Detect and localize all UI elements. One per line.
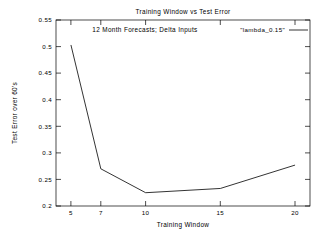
y-tick-label-2: 0.3 xyxy=(42,149,52,156)
chart-subtitle: 12 Month Forecasts; Delta Inputs xyxy=(92,26,197,34)
chart-background xyxy=(0,0,325,234)
x-tick-label-0: 5 xyxy=(69,209,73,216)
y-tick-label-7: 0.55 xyxy=(39,16,53,23)
x-axis-label: Training Window xyxy=(157,221,210,229)
legend-entry-label: "lambda_0.15" xyxy=(240,26,285,33)
line-chart: Training Window vs Test Error 12 Month F… xyxy=(0,0,325,234)
y-tick-label-4: 0.4 xyxy=(42,96,52,103)
x-tick-label-1: 7 xyxy=(99,209,103,216)
y-tick-label-6: 0.5 xyxy=(42,43,52,50)
chart-container: Training Window vs Test Error 12 Month F… xyxy=(0,0,325,234)
y-tick-label-5: 0.45 xyxy=(39,69,53,76)
chart-title: Training Window vs Test Error xyxy=(135,8,231,16)
y-axis-label: Test Error over 60's xyxy=(11,82,18,144)
y-tick-label-0: 0.2 xyxy=(42,202,52,209)
x-tick-label-3: 15 xyxy=(217,209,225,216)
y-tick-label-3: 0.35 xyxy=(39,123,53,130)
x-tick-label-2: 10 xyxy=(142,209,150,216)
y-tick-label-1: 0.25 xyxy=(39,176,53,183)
x-tick-label-4: 20 xyxy=(291,209,299,216)
